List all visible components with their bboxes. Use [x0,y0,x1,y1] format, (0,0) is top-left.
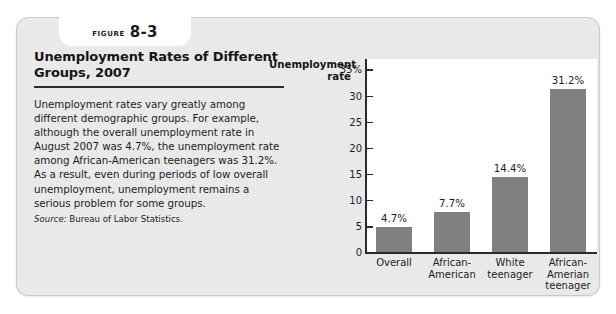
figure-caption-body: Unemployment rates vary greatly among di… [34,97,284,210]
figure-source: Source: Bureau of Labor Statistics. [34,214,284,225]
bar-value-label: 14.4% [494,163,526,174]
y-tick-label: 15 [349,168,362,179]
figure-tab-label: FIGURE [92,26,125,38]
y-tick-label: 0 [356,247,362,258]
bar: 4.7%Overall [376,227,412,252]
y-tick: 30 [367,96,373,98]
y-tick-label: 10 [349,194,362,205]
y-axis-title: Unemployment rate [269,59,351,82]
figure-text-column: Unemployment Rates of Different Groups, … [34,49,284,225]
plot-area-container: 05101520253035% 4.7%Overall7.7%African-A… [365,59,597,254]
figure-tab: FIGURE 8-3 [59,17,191,46]
bar: 7.7%African-American [434,212,470,252]
x-axis-category-label: African-Amerianteenager [537,257,599,292]
bar-value-label: 4.7% [381,213,407,224]
y-tick-label: 5 [356,220,362,231]
y-tick: 35% [367,69,373,71]
bar: 14.4%Whiteteenager [492,177,528,252]
y-tick: 0 [367,252,373,254]
bar-chart: Unemployment rate 05101520253035% 4.7%Ov… [269,48,599,293]
y-tick-label: 30 [349,90,362,101]
figure-tab-number: 8-3 [130,23,158,41]
y-tick: 5 [367,226,373,228]
title-divider [34,86,284,88]
bar: 31.2%African-Amerianteenager [550,89,586,252]
y-axis-line [365,59,367,254]
bar-value-label: 7.7% [439,198,465,209]
source-text: Bureau of Labor Statistics. [69,214,182,224]
y-tick-label: 25 [349,116,362,127]
y-tick-label: 20 [349,142,362,153]
x-axis-category-label: Whiteteenager [479,257,541,280]
figure-card: FIGURE 8-3 Unemployment Rates of Differe… [16,17,600,296]
y-tick: 20 [367,148,373,150]
y-tick: 10 [367,200,373,202]
source-label: Source: [34,214,67,224]
x-axis-category-label: Overall [363,257,425,269]
y-tick: 25 [367,122,373,124]
x-axis-line [365,252,597,254]
bar-value-label: 31.2% [552,75,584,86]
y-tick: 15 [367,174,373,176]
y-tick-label: 35% [340,64,362,75]
figure-title: Unemployment Rates of Different Groups, … [34,49,284,80]
x-axis-category-label: African-American [421,257,483,280]
